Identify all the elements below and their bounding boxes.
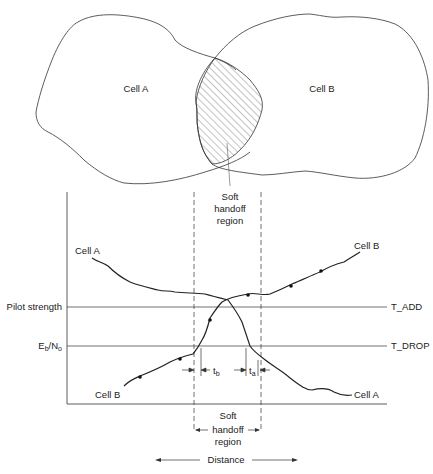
- cell-b-sample-point: [319, 269, 323, 273]
- overlap-label-line1: Soft: [222, 191, 239, 202]
- region-arrowhead-right: [255, 428, 260, 432]
- cell-b-sample-point: [246, 293, 250, 297]
- cell-b-sample-point: [208, 318, 212, 322]
- handoff-diagram: Cell A Cell B Soft handoff region: [0, 0, 433, 474]
- t-a-label: ta: [249, 365, 256, 377]
- cell-coverage-diagram: Cell A Cell B Soft handoff region: [36, 14, 428, 226]
- region-label-line2: handoff: [212, 424, 244, 435]
- timing-markers: [182, 348, 270, 376]
- cell-b-sample-point: [289, 284, 293, 288]
- cell-a-start-label: Cell A: [75, 245, 100, 256]
- cell-b-end-label: Cell B: [354, 240, 379, 251]
- cell-a-end-label: Cell A: [354, 389, 379, 400]
- overlap-label-line2: handoff: [214, 203, 246, 214]
- distance-arrowhead-left: [155, 458, 161, 462]
- eb-no-label: Eb/No: [38, 340, 62, 352]
- region-label-line1: Soft: [220, 410, 237, 421]
- cell-b-pilot-curve: [124, 252, 360, 386]
- cell-a-label: Cell A: [124, 83, 149, 94]
- distance-arrowhead-right: [292, 458, 298, 462]
- t-drop-label: T_DROP: [391, 340, 430, 351]
- soft-handoff-overlap: [196, 58, 262, 164]
- cell-b-start-label: Cell B: [95, 389, 120, 400]
- pilot-strength-graph: tb ta Cell A Cell A Cell B Cell B Pilot …: [7, 192, 430, 465]
- cell-b-sample-point: [138, 375, 142, 379]
- region-label-line3: region: [215, 436, 241, 447]
- distance-label: Distance: [208, 454, 245, 465]
- t-add-label: T_ADD: [391, 301, 422, 312]
- cell-b-sample-point: [178, 357, 182, 361]
- region-arrowhead-left: [195, 428, 200, 432]
- pilot-strength-label: Pilot strength: [7, 301, 62, 312]
- cell-a-pilot-curve: [92, 258, 352, 395]
- t-b-label: tb: [213, 365, 220, 377]
- overlap-label-line3: region: [217, 215, 243, 226]
- cell-b-label: Cell B: [309, 83, 334, 94]
